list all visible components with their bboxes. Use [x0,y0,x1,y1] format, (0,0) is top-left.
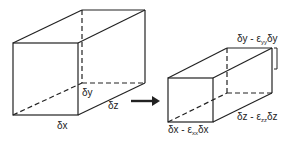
deformed-box-front-face [168,78,213,122]
label-dx: δx [57,120,68,131]
label-dz: δz [108,100,119,111]
label-dx-strain: δx - εxxδx [168,124,209,136]
original-box [13,10,145,115]
label-dy: δy [82,87,93,98]
right-arrow-icon [131,96,160,106]
original-box-front-face [13,43,78,115]
label-dz-strain: δz - εzzδz [237,111,278,123]
label-dy-strain: δy - εyyδy [237,33,278,45]
strain-diagram: δy δz δx δy - εyyδy δz - εzzδz δx - εxxδ… [0,0,291,141]
